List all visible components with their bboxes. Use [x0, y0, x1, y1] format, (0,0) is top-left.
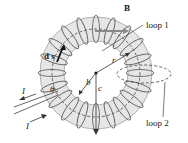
current-arrow-in: [30, 116, 44, 122]
label-current-top: I: [22, 87, 25, 96]
label-c: c: [98, 84, 102, 93]
current-arrow-out-head: [19, 96, 25, 100]
label-r: r: [112, 56, 116, 65]
radius-c-arrowhead: [93, 129, 99, 135]
label-loop1: loop 1: [146, 21, 169, 30]
label-loop2: loop 2: [146, 119, 169, 128]
label-current-bottom: I: [26, 122, 29, 131]
loop2-pointer: [163, 82, 165, 117]
label-ds: d s: [44, 52, 55, 61]
label-theta: θ: [50, 85, 54, 94]
label-b: b: [86, 78, 91, 87]
radius-b-arrowhead: [79, 90, 83, 95]
vector-arrow-glyph: →: [124, 1, 131, 9]
